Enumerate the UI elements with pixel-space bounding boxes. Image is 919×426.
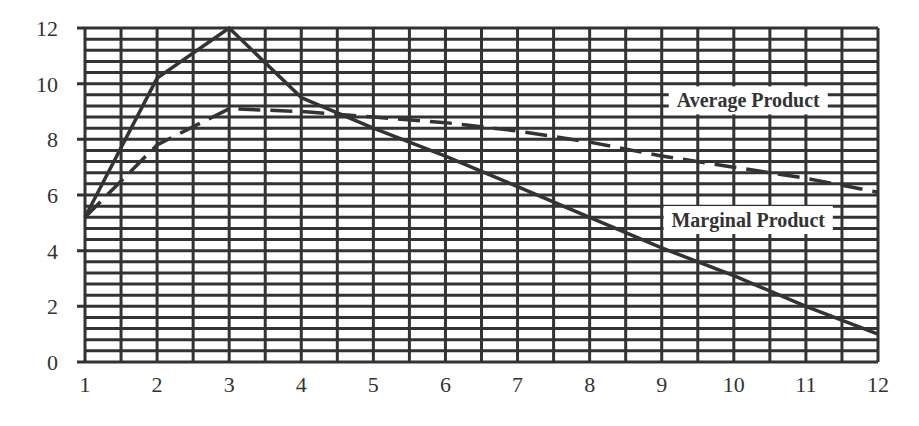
y-tick-label: 12 [36, 16, 58, 41]
svg-text:Average Product: Average Product [677, 89, 820, 112]
x-tick-label: 12 [867, 372, 889, 397]
x-tick-label: 3 [224, 372, 235, 397]
x-tick-label: 6 [440, 372, 451, 397]
svg-text:Marginal Product: Marginal Product [671, 209, 825, 232]
y-tick-label: 4 [47, 239, 58, 264]
y-tick-label: 8 [47, 127, 58, 152]
x-tick-label: 7 [512, 372, 523, 397]
x-tick-label: 4 [296, 372, 307, 397]
series-label: Marginal Product [664, 206, 833, 234]
y-tick-label: 10 [36, 72, 58, 97]
x-axis-ticks: 123456789101112 [80, 372, 890, 397]
x-tick-label: 11 [795, 372, 816, 397]
x-tick-label: 9 [656, 372, 667, 397]
x-tick-label: 5 [368, 372, 379, 397]
line-chart: 024681012 123456789101112 Average Produc… [0, 0, 919, 426]
x-tick-label: 1 [80, 372, 91, 397]
y-tick-label: 0 [47, 350, 58, 375]
y-tick-label: 2 [47, 294, 58, 319]
x-tick-label: 8 [584, 372, 595, 397]
x-tick-label: 10 [723, 372, 745, 397]
y-axis-ticks: 024681012 [36, 16, 58, 375]
y-tick-label: 6 [47, 183, 58, 208]
series-label: Average Product [669, 86, 828, 114]
x-tick-label: 2 [152, 372, 163, 397]
grid-lines [77, 28, 878, 362]
